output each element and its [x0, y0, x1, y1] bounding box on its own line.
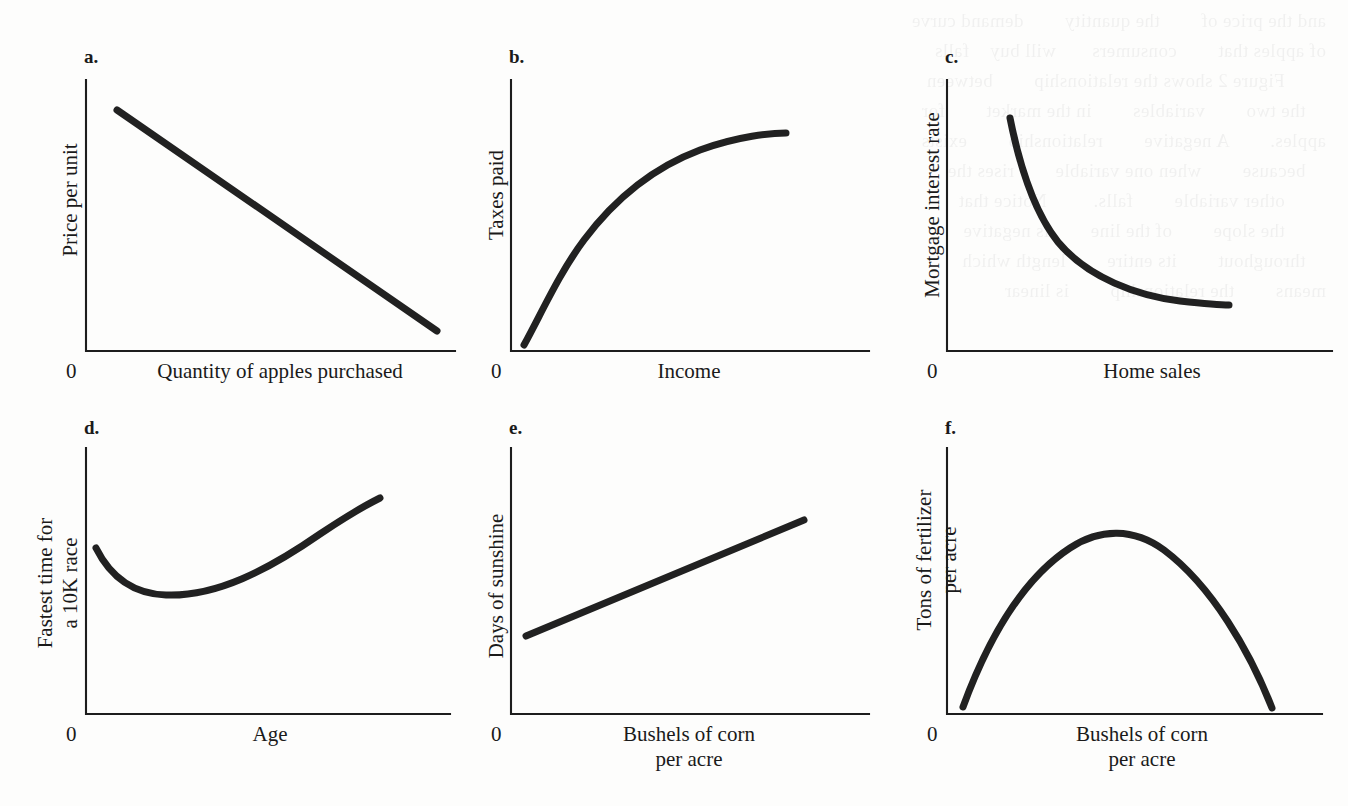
- panel-d-axes: [86, 448, 450, 714]
- panel-a-xlabel: Quantity of apples purchased: [100, 359, 460, 384]
- panel-e-ylabel: Days of sunshine: [484, 476, 509, 696]
- panel-f-axes: [947, 448, 1322, 714]
- panel-d: d. Fastest time for a 10K race 0 Age: [0, 398, 470, 806]
- panel-d-xlabel: Age: [130, 722, 410, 747]
- panel-a: a. Price per unit 0 Quantity of apples p…: [0, 0, 470, 400]
- panel-a-origin-label: 0: [66, 361, 77, 382]
- panel-a-ylabel: Price per unit: [58, 100, 83, 300]
- panel-c-letter: c.: [945, 47, 958, 66]
- panel-b-xlabel: Income: [549, 359, 829, 384]
- panel-d-origin-label: 0: [66, 724, 77, 745]
- panel-c-curve: [1010, 118, 1229, 305]
- figure-page: and the price of the quantity demand cur…: [0, 0, 1348, 806]
- panel-e-xlabel: Bushels of corn per acre: [549, 722, 829, 772]
- panel-b-letter: b.: [509, 47, 524, 66]
- panel-a-letter: a.: [84, 47, 98, 66]
- panel-c-axes: [947, 80, 1332, 351]
- panel-d-ylabel: Fastest time for a 10K race: [33, 468, 83, 698]
- panel-f-letter: f.: [945, 418, 956, 437]
- panel-e-letter: e.: [509, 418, 522, 437]
- panel-c: c. Mortgage interest rate 0 Home sales: [852, 0, 1348, 400]
- panel-f-xlabel: Bushels of corn per acre: [1002, 722, 1282, 772]
- panel-b: b. Taxes paid 0 Income: [414, 0, 884, 400]
- panel-c-ylabel: Mortgage interest rate: [920, 80, 945, 330]
- panel-a-curve: [117, 110, 437, 331]
- panel-e-axes: [511, 448, 869, 714]
- panel-e-origin-label: 0: [491, 724, 502, 745]
- panel-c-origin-label: 0: [927, 361, 938, 382]
- panel-c-xlabel: Home sales: [1012, 359, 1292, 384]
- panel-f-curve: [963, 533, 1272, 708]
- panel-d-curve: [96, 498, 380, 595]
- panel-e: e. Days of sunshine 0 Bushels of corn pe…: [414, 398, 884, 806]
- panel-f-origin-label: 0: [927, 724, 938, 745]
- panel-b-ylabel: Taxes paid: [484, 105, 509, 285]
- panel-b-axes: [511, 80, 869, 351]
- panel-b-origin-label: 0: [491, 361, 502, 382]
- panel-d-letter: d.: [84, 418, 99, 437]
- panel-e-curve: [526, 520, 804, 636]
- panel-f-ylabel: Tons of fertilizer per acre: [912, 450, 962, 670]
- panel-f: f. Tons of fertilizer per acre 0 Bushels…: [852, 398, 1348, 806]
- panel-b-curve: [524, 133, 786, 345]
